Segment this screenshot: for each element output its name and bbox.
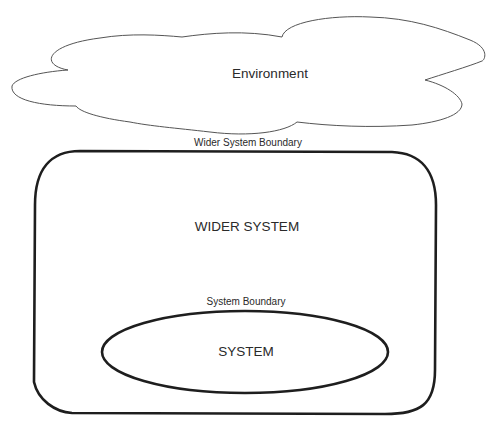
wider-system-boundary-rect — [34, 151, 436, 414]
wider-system-boundary-label: Wider System Boundary — [194, 137, 302, 148]
diagram-canvas — [0, 0, 496, 429]
environment-label: Environment — [232, 66, 308, 81]
system-boundary-label: System Boundary — [207, 296, 286, 307]
system-label: SYSTEM — [218, 344, 274, 359]
wider-system-label: WIDER SYSTEM — [195, 219, 299, 234]
